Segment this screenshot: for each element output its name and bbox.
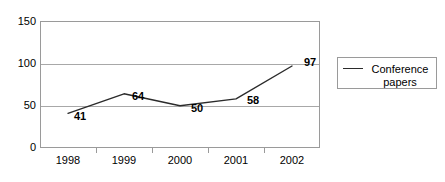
series-line-conference-papers — [40, 21, 320, 148]
y-tick-label-0: 0 — [2, 142, 36, 153]
point-label-2001: 58 — [247, 95, 259, 106]
y-tick-label-100: 100 — [2, 58, 36, 69]
x-tick-label-2002: 2002 — [264, 155, 320, 166]
y-tick-label-150: 150 — [2, 16, 36, 27]
x-tick-label-2001: 2001 — [208, 155, 264, 166]
x-tick-label-1998: 1998 — [40, 155, 96, 166]
x-tick-label-2000: 2000 — [152, 155, 208, 166]
x-tick-mark-4 — [264, 148, 265, 153]
x-tick-label-1999: 1999 — [96, 155, 152, 166]
chart-screenshot: 150 100 50 0 41 64 50 58 97 1998 1999 20… — [0, 0, 445, 182]
point-label-1998: 41 — [74, 111, 86, 122]
point-label-1999: 64 — [132, 91, 144, 102]
x-tick-mark-1 — [96, 148, 97, 153]
legend-item-conference-papers: Conferencepapers — [343, 63, 433, 89]
legend-item-label: Conferencepapers — [367, 63, 433, 89]
legend-line-swatch-icon — [343, 63, 363, 74]
point-label-2002: 97 — [304, 57, 316, 68]
y-axis-tick-labels: 150 100 50 0 — [0, 0, 36, 182]
legend-label-line1: Conference — [372, 63, 429, 75]
y-tick-label-50: 50 — [2, 100, 36, 111]
legend-label-line2: papers — [383, 76, 417, 88]
point-label-2000: 50 — [191, 103, 203, 114]
x-tick-mark-2 — [152, 148, 153, 153]
x-tick-mark-3 — [208, 148, 209, 153]
legend: Conferencepapers — [337, 57, 437, 89]
